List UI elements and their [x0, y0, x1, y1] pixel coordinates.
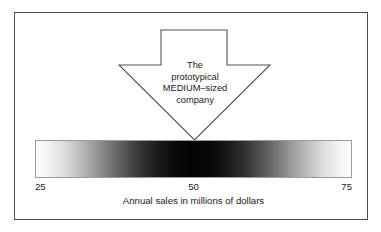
axis-tick-labels: 25 50 75 — [35, 181, 352, 195]
annotation-label: The prototypical MEDIUM–sized company — [148, 60, 242, 106]
annotation-label-line-3: MEDIUM–sized — [148, 83, 242, 95]
axis-tick-75: 75 — [341, 181, 352, 192]
annotation-label-line-1: The — [148, 60, 242, 72]
axis-caption: Annual sales in millions of dollars — [35, 195, 352, 206]
annotation-label-line-4: company — [148, 95, 242, 107]
axis-tick-50: 50 — [188, 181, 199, 192]
axis-tick-25: 25 — [35, 181, 46, 192]
density-gradient-bar — [35, 140, 352, 178]
annotation-label-line-2: prototypical — [148, 72, 242, 84]
figure-root: The prototypical MEDIUM–sized company 25… — [0, 0, 381, 232]
